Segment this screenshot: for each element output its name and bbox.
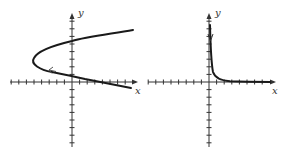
curve-sideways-parabola xyxy=(33,30,133,88)
x-axis-arrow-icon xyxy=(132,80,138,85)
y-axis-arrow-icon xyxy=(207,13,212,19)
graph-left-svg: y x xyxy=(0,0,142,156)
x-axis-label: x xyxy=(272,85,278,96)
y-axis-arrow-icon xyxy=(70,13,75,19)
x-axis-label: x xyxy=(135,85,141,96)
graph-right-decay-curve: y x xyxy=(142,0,284,156)
graph-left-sideways-parabola: y x xyxy=(0,0,142,156)
y-axis-label: y xyxy=(77,7,84,18)
graph-right-svg: y x xyxy=(142,0,284,156)
curve-decay xyxy=(210,25,270,82)
y-axis-label: y xyxy=(214,7,221,18)
